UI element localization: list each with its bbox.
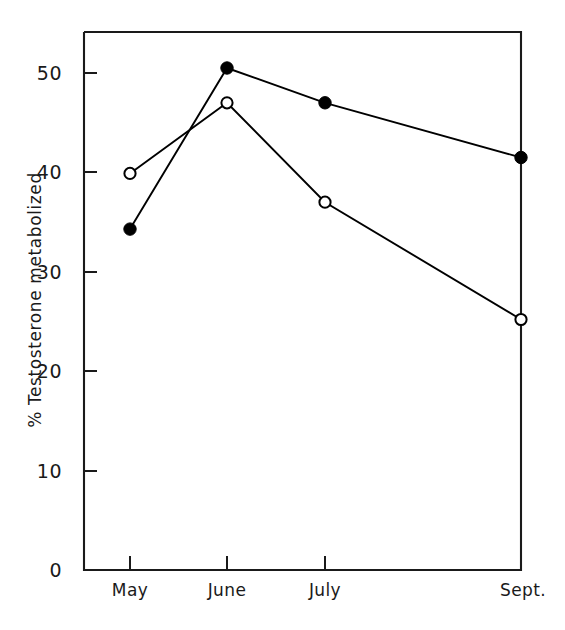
data-point-filled-circle-series-Sept. bbox=[515, 151, 527, 163]
series-open-circle-series bbox=[124, 97, 526, 325]
data-point-filled-circle-series-May bbox=[124, 223, 136, 235]
axis-frame bbox=[84, 32, 521, 570]
data-point-open-circle-series-July bbox=[319, 197, 330, 208]
y-tick-marks bbox=[84, 73, 97, 471]
data-point-open-circle-series-Sept. bbox=[515, 314, 526, 325]
data-point-filled-circle-series-July bbox=[319, 97, 331, 109]
x-tick-marks bbox=[130, 556, 325, 570]
chart-figure: % Testosterone metabolized 50 40 30 20 1… bbox=[0, 0, 565, 630]
series-line-open-circle-series bbox=[130, 103, 521, 320]
data-point-open-circle-series-June bbox=[221, 97, 232, 108]
series-layer bbox=[124, 62, 527, 325]
series-filled-circle-series bbox=[124, 62, 527, 236]
plot-area bbox=[0, 0, 565, 630]
data-point-open-circle-series-May bbox=[124, 168, 135, 179]
data-point-filled-circle-series-June bbox=[221, 62, 233, 74]
